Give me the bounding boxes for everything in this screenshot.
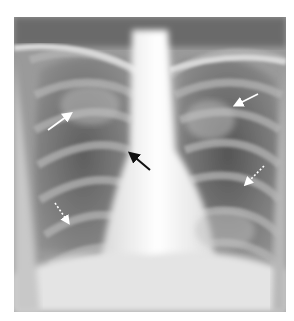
- arrow-right-upper-icon: [48, 114, 70, 130]
- arrow-left-upper-icon: [236, 94, 258, 105]
- arrow-right-lower-dashed-icon: [55, 203, 68, 222]
- arrow-hilum-icon: [131, 154, 150, 170]
- annotation-layer: [0, 0, 294, 321]
- arrow-left-lower-dashed-icon: [246, 166, 264, 184]
